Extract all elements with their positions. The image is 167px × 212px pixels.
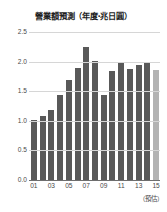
x-axis-tick-label: 09 (97, 183, 111, 190)
plot-area (29, 32, 160, 180)
x-axis-tick-label: 05 (62, 183, 76, 190)
bar (66, 80, 72, 180)
y-axis-tick-label: 2.0 (1, 59, 27, 66)
x-axis-tick-label: 13 (132, 183, 146, 190)
chart-title: 營業額預測（年度‧兆日圓） (0, 9, 167, 21)
gridline (29, 121, 160, 122)
bar (101, 95, 107, 180)
axis-baseline (29, 180, 160, 181)
bar (127, 69, 133, 180)
y-axis-tick-label: 2.5 (1, 29, 27, 36)
x-axis-tick-label: 03 (44, 183, 58, 190)
bar (83, 47, 89, 180)
x-axis-tick-label: 15 (149, 183, 163, 190)
bar (57, 95, 63, 180)
x-axis-tick-label: 07 (79, 183, 93, 190)
bar (40, 116, 46, 180)
x-axis-tick-label: 11 (114, 183, 128, 190)
y-axis-tick-label: 0.0 (1, 177, 27, 184)
x-axis-tick-label: 01 (27, 183, 41, 190)
forecast-note: （預估） (139, 194, 163, 203)
bar (136, 65, 142, 180)
gridline (29, 91, 160, 92)
chart-container: 營業額預測（年度‧兆日圓） 2.52.01.51.00.50.0 0103050… (0, 0, 167, 212)
bar (153, 70, 159, 180)
y-axis: 2.52.01.51.00.50.0 (0, 32, 27, 182)
bar (109, 71, 115, 180)
gridline (29, 62, 160, 63)
bar-series (29, 32, 160, 180)
bar (75, 68, 81, 180)
gridline (29, 150, 160, 151)
y-axis-tick-label: 1.5 (1, 88, 27, 95)
gridline (29, 32, 160, 33)
y-axis-tick-label: 0.5 (1, 147, 27, 154)
y-axis-tick-label: 1.0 (1, 118, 27, 125)
